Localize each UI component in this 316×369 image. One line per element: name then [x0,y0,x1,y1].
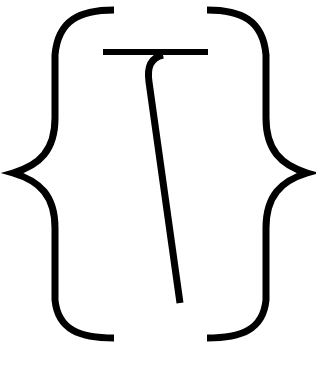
right-brace-icon [207,10,307,338]
t-stem-icon [148,55,180,303]
logo [0,0,316,369]
left-brace-icon [13,10,114,338]
